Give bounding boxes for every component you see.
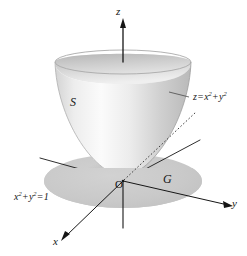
region-label-g: G — [163, 173, 172, 185]
circle-eq-equals: = — [37, 191, 44, 202]
surface-equation-label: z=x2+y2 — [193, 92, 227, 102]
circle-eq-plus: + — [22, 191, 29, 202]
x-axis-arrowhead — [61, 231, 70, 241]
axis-label-x: x — [53, 236, 58, 247]
figure-canvas — [0, 0, 247, 256]
paraboloid-figure: z y x O S G z=x2+y2 x2+y2=1 — [0, 0, 247, 256]
surface-eq-term2-exp: 2 — [223, 90, 226, 97]
axis-label-z: z — [116, 6, 120, 17]
circle-equation-label: x2+y2=1 — [14, 192, 49, 202]
z-axis-arrowhead — [120, 18, 126, 28]
circle-eq-rhs: 1 — [44, 191, 49, 202]
axis-label-y: y — [232, 198, 237, 209]
surface-eq-plus: + — [212, 91, 219, 102]
surface-label-s: S — [70, 96, 76, 108]
origin-label: O — [115, 179, 123, 190]
